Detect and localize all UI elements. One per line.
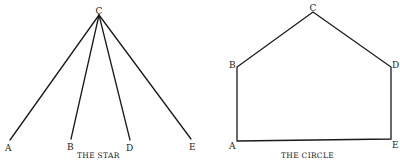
star-edge-c-e [99,15,191,139]
circle-node-b-label: B [229,60,236,70]
star-title: THE STAR [77,151,120,160]
circle-node-a-label: A [228,141,236,151]
circle-title: THE CIRCLE [281,151,334,160]
star-node-d-label: D [126,143,133,153]
star-node-c-label: C [96,6,103,16]
star-edge-c-d [99,15,130,140]
star-edge-c-a [10,15,99,140]
circle-node-d-label: D [392,60,399,70]
circle-diagram: C B D A E THE CIRCLE [228,3,399,160]
star-diagram: C A B D E THE STAR [4,6,196,160]
star-node-b-label: B [67,142,74,152]
star-node-e-label: E [189,142,196,152]
circle-node-c-label: C [310,3,317,13]
star-node-a-label: A [4,143,12,153]
circle-node-e-label: E [392,140,399,150]
circle-ring-edges [237,12,391,141]
network-diagrams: C A B D E THE STAR C B D A E THE CIRCLE [0,0,400,165]
